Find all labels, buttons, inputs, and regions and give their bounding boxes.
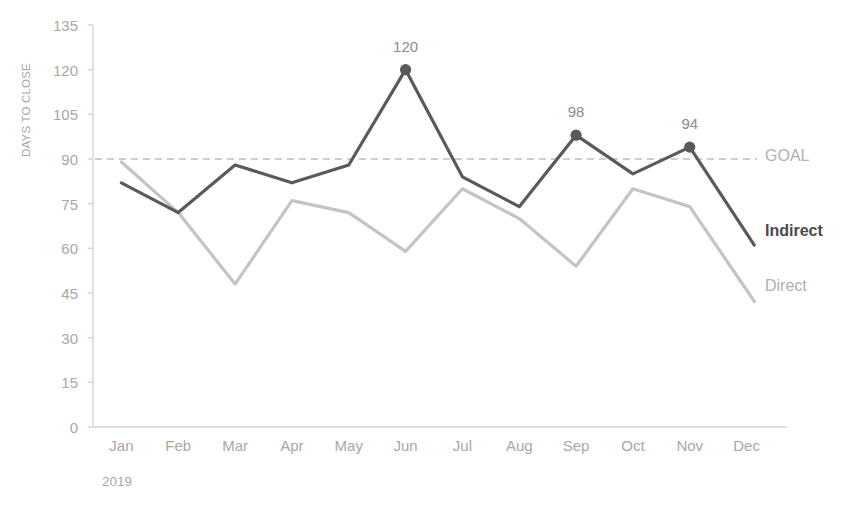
line-chart: DAYS TO CLOSE 0153045607590105120135 Jan… <box>0 0 846 505</box>
data-label-jun: 120 <box>393 38 418 55</box>
series-line-indirect <box>121 70 746 234</box>
series-tail-indirect <box>747 233 755 245</box>
data-label-nov: 94 <box>681 115 698 132</box>
marker-jun <box>400 64 411 75</box>
legend-label-direct: Direct <box>765 277 807 295</box>
series-tail-direct <box>747 290 755 302</box>
plot-area <box>0 0 846 505</box>
legend-label-goal: GOAL <box>765 147 809 165</box>
marker-nov <box>684 141 695 152</box>
legend-label-indirect: Indirect <box>765 222 823 240</box>
data-label-sep: 98 <box>568 103 585 120</box>
marker-sep <box>570 130 581 141</box>
